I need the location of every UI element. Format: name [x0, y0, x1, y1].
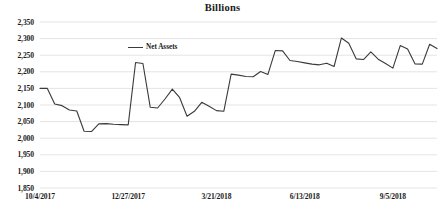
y-axis-tick-label: 2,300 — [0, 34, 34, 43]
plot-area — [0, 0, 445, 217]
x-axis-tick-label: 6/13/2018 — [270, 192, 340, 201]
y-axis-tick-label: 2,200 — [0, 67, 34, 76]
y-axis-tick-label: 2,250 — [0, 51, 34, 60]
y-axis-tick-label: 1,900 — [0, 167, 34, 176]
y-axis-tick-label: 2,100 — [0, 101, 34, 110]
legend: Net Assets — [128, 44, 177, 51]
x-axis-tick-label: 10/4/2017 — [5, 192, 75, 201]
y-axis-tick-label: 2,050 — [0, 117, 34, 126]
y-axis-tick-label: 2,150 — [0, 84, 34, 93]
legend-line-swatch — [128, 47, 143, 48]
x-axis-tick-label: 3/21/2018 — [181, 192, 251, 201]
x-axis-tick-label: 12/27/2017 — [93, 192, 163, 201]
y-axis-tick-label: 2,000 — [0, 134, 34, 143]
y-axis-tick-label: 1,950 — [0, 150, 34, 159]
gridlines — [40, 22, 437, 188]
x-axis-tick-label: 9/5/2018 — [358, 192, 428, 201]
series-line-net-assets — [40, 38, 437, 132]
y-axis-tick-label: 2,350 — [0, 18, 34, 27]
legend-item-label: Net Assets — [146, 44, 177, 51]
chart-container: Billions 2,3502,3002,2502,2002,1502,1002… — [0, 0, 445, 217]
